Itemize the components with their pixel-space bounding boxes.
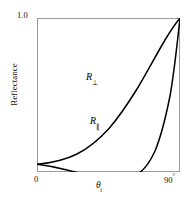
x-axis-tick-max-value: 90 bbox=[164, 175, 173, 185]
degree-symbol: ° bbox=[173, 173, 175, 179]
curve-overlay bbox=[37, 18, 180, 172]
x-axis-tick-min: 0 bbox=[34, 175, 38, 184]
y-axis-title: Reflectance bbox=[10, 45, 19, 125]
x-axis-title: θi bbox=[96, 181, 102, 192]
x-axis-title-subscript: i bbox=[100, 186, 102, 193]
curve-label-r-perpendicular: R⊥ bbox=[86, 72, 98, 85]
curve-label-r-parallel: R∥ bbox=[90, 116, 100, 129]
curve-label-r-perpendicular-subscript: ⊥ bbox=[92, 79, 98, 87]
curve-label-r-parallel-subscript: ∥ bbox=[96, 123, 100, 131]
x-axis-tick-max: 90° bbox=[164, 174, 175, 184]
reflectance-chart-figure: 1.0 0 90° Reflectance θi R⊥ R∥ bbox=[0, 0, 196, 202]
y-axis-tick-max: 1.0 bbox=[17, 11, 28, 20]
curve-r-parallel bbox=[37, 18, 180, 172]
